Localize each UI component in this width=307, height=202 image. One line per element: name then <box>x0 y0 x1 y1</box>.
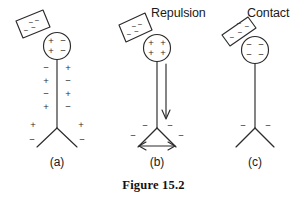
base-charge-b-right-upper: − <box>167 120 173 131</box>
stem-charge-a-left-3: − <box>43 88 49 99</box>
panel-a-rod: − − − − <box>16 10 50 38</box>
sphere-charge-b-r1c1: + <box>160 47 166 58</box>
leg-left-c <box>236 128 255 147</box>
panel-b-rod: − − − − <box>119 13 152 42</box>
panel-a-sphere: + − + − <box>44 33 71 60</box>
sphere-charge-c-r1c0: − <box>246 49 252 60</box>
electroscope-diagram-canvas: − − − − + − + − − + <box>0 0 307 202</box>
rod-charge-c-1: − <box>230 33 235 42</box>
panel-label-b: (b) <box>137 155 177 169</box>
panel-label-a: (a) <box>37 155 77 169</box>
rod-charge-a-1: − <box>24 26 29 35</box>
base-charge-b-left-upper: − <box>142 120 148 131</box>
leg-right-a <box>57 128 77 147</box>
panel-c-group: − − − − − − − − − − <box>222 17 274 147</box>
stem-charge-a-right-2: − <box>65 75 71 86</box>
leg-right-c <box>255 128 274 147</box>
leg-left-a <box>37 128 57 147</box>
panel-c-electroscope-stand <box>236 64 274 148</box>
panel-label-c: (c) <box>235 155 275 169</box>
annotation-repulsion: Repulsion <box>151 6 206 20</box>
panel-a-group: − − − − + − + − − + <box>16 10 85 147</box>
stem-charge-a-left-1: − <box>43 62 49 73</box>
stem-charge-a-right-3: + <box>65 88 71 99</box>
panel-c-sphere: − − − − <box>242 37 269 64</box>
rod-charge-a-3: − <box>35 16 40 25</box>
base-charge-a-left-lower: − <box>29 134 35 145</box>
rod-charge-b-4: − <box>132 22 137 31</box>
stem-charge-a-left-2: + <box>43 75 49 86</box>
stem-charge-a-right-4: − <box>65 101 71 112</box>
figure-caption: Figure 15.2 <box>0 178 307 193</box>
annotation-contact: Contact <box>247 6 289 20</box>
sphere-charge-a-r1c1: − <box>60 45 66 56</box>
base-charge-a-right-upper: + <box>78 119 84 130</box>
spread-arrow-b <box>139 142 175 150</box>
figure-illustration: − − − − + − + − − + <box>0 0 307 202</box>
rod-charge-b-3: − <box>138 20 143 29</box>
rod-charge-c-4: − <box>237 19 242 28</box>
rod-charge-c-3: − <box>245 22 250 31</box>
base-charge-a-left-upper: + <box>30 119 36 130</box>
base-charge-a-right-lower: − <box>79 134 85 145</box>
base-charge-c-right-upper: − <box>265 120 271 131</box>
base-charge-c-left-upper: − <box>240 120 246 131</box>
leg-right-b <box>157 128 176 147</box>
leg-left-b <box>138 128 157 147</box>
base-charge-b-right-lower: − <box>178 130 184 141</box>
rod-charge-c-2: − <box>238 28 243 37</box>
base-charge-b-left-lower: − <box>130 130 136 141</box>
sphere-charge-b-r1c0: + <box>148 47 154 58</box>
panel-b-sphere: + + + + <box>144 35 171 62</box>
panel-b-group: − − − − + + + + <box>119 13 184 150</box>
stem-charge-a-left-4: + <box>43 101 49 112</box>
rod-charge-a-4: − <box>29 18 34 27</box>
stem-charge-a-right-1: + <box>65 62 71 73</box>
sphere-charge-c-r1c1: − <box>258 49 264 60</box>
panel-b-electroscope-stand <box>138 62 176 148</box>
down-arrow-b <box>162 64 170 119</box>
rod-charge-b-1: − <box>127 30 132 39</box>
sphere-charge-a-r1c0: + <box>48 45 54 56</box>
